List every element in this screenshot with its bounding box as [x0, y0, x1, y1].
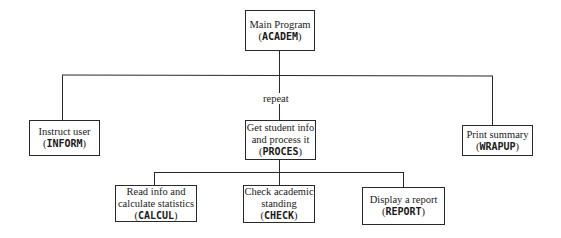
module-name: ACADEM [262, 31, 298, 42]
module-desc-line2: calculate statistics [118, 198, 194, 210]
module-desc-line1: Check academic [244, 186, 313, 198]
module-name: WRAPUP [479, 141, 515, 152]
module-desc-line1: Read info and [127, 186, 186, 198]
module-desc: Main Program [250, 19, 311, 31]
connector-check [279, 172, 280, 186]
module-desc: Display a report [370, 194, 438, 206]
module-name: CALCUL [138, 210, 174, 221]
module-box-calcul: Read info and calculate statistics (CALC… [115, 185, 197, 222]
module-box-inform: Instruct user (INFORM) [29, 120, 100, 156]
connector-root-down [279, 51, 280, 76]
module-name: REPORT [385, 206, 421, 217]
module-desc-line1: Get student info [247, 122, 315, 134]
module-name: PROCES [262, 146, 298, 157]
connector-inform [62, 75, 63, 121]
module-desc: Print summary [466, 129, 528, 141]
connector-level1-bus [62, 74, 493, 76]
module-box-academ: Main Program (ACADEM) [245, 10, 315, 51]
module-box-check: Check academic standing (CHECK) [243, 185, 315, 223]
connector-wrapup [492, 76, 493, 126]
module-box-wrapup: Print summary (WRAPUP) [462, 125, 533, 156]
module-box-proces: Get student info and process it (PROCES) [245, 120, 316, 160]
module-desc-line2: standing [261, 198, 297, 210]
connector-calcul [154, 172, 155, 186]
module-box-report: Display a report (REPORT) [362, 187, 445, 225]
module-desc: Instruct user [38, 126, 90, 138]
module-name: CHECK [264, 210, 294, 221]
module-desc-line2: and process it [252, 134, 310, 146]
module-name: INFORM [46, 138, 82, 149]
repeat-label: repeat [261, 93, 291, 104]
connector-report [403, 172, 404, 188]
